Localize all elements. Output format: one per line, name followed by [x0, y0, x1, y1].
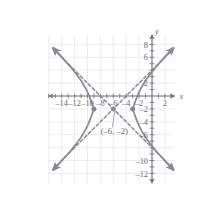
y-tick-label: 2 [144, 79, 148, 88]
x-tick-label: 2 [163, 99, 167, 108]
center-point-label: (–6, –2) [101, 126, 128, 136]
y-tick-label: –12 [134, 170, 148, 179]
x-tick-label: –4 [121, 99, 131, 108]
y-tick-label: –6 [139, 131, 148, 140]
x-tick-label: –12 [67, 99, 81, 108]
x-tick-label: –8 [95, 99, 104, 108]
x-tick-label: –10 [80, 99, 94, 108]
x-tick-label: –14 [54, 99, 68, 108]
x-axis-name: x [179, 91, 184, 101]
y-axis-name: y [154, 26, 159, 36]
y-tick-label: –2 [139, 105, 148, 114]
y-tick-label: 6 [144, 53, 148, 62]
tick-labels: –14–12–10–8–6–4–22862–2–4–6–10–12xy(–6, … [54, 26, 183, 179]
y-tick-label: 8 [144, 41, 148, 50]
plot-canvas: –14–12–10–8–6–4–22862–2–4–6–10–12xy(–6, … [0, 0, 199, 218]
hyperbola-graph: –14–12–10–8–6–4–22862–2–4–6–10–12xy(–6, … [0, 0, 199, 218]
x-tick-label: –6 [108, 99, 117, 108]
y-tick-label: –10 [134, 157, 148, 166]
y-tick-label: –4 [139, 118, 149, 127]
